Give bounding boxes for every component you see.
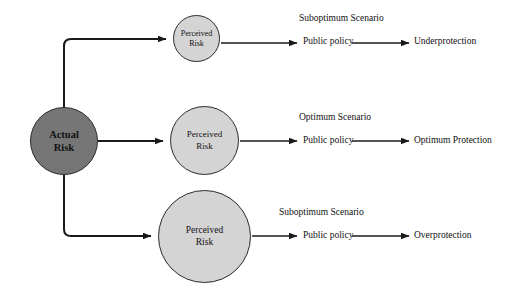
connector-source-to-perceived-1	[64, 39, 166, 107]
scenario-label-optimum: Optimum Scenario	[299, 112, 371, 122]
scenario-label-underprotection: Suboptimum Scenario	[299, 13, 384, 23]
perceived-risk-2-label-line2: Risk	[196, 141, 213, 152]
perceived-risk-node-accurate: Perceived Risk	[170, 106, 239, 175]
scenario-label-overprotection: Suboptimum Scenario	[279, 207, 364, 217]
risk-perception-diagram: Actual Risk Perceived Risk Perceived Ris…	[0, 0, 517, 287]
outcome-label-overprotection: Overprotection	[414, 230, 472, 240]
perceived-risk-1-label-line2: Risk	[189, 39, 204, 49]
perceived-risk-3-label-line2: Risk	[196, 237, 213, 249]
perceived-risk-node-overestimate: Perceived Risk	[158, 190, 251, 283]
actual-risk-label-line1: Actual	[49, 128, 79, 141]
perceived-risk-1-label-line1: Perceived	[181, 29, 213, 39]
perceived-risk-3-label-line1: Perceived	[186, 225, 223, 237]
outcome-label-underprotection: Underprotection	[414, 36, 476, 46]
policy-label-row-3: Public policy	[303, 230, 353, 240]
perceived-risk-node-underestimate: Perceived Risk	[173, 15, 220, 62]
policy-label-row-1: Public policy	[303, 36, 353, 46]
connector-source-to-perceived-3	[64, 175, 151, 236]
actual-risk-label-line2: Risk	[54, 141, 74, 154]
perceived-risk-2-label-line1: Perceived	[187, 129, 222, 140]
outcome-label-optimum-protection: Optimum Protection	[414, 135, 492, 145]
policy-label-row-2: Public policy	[303, 135, 353, 145]
actual-risk-node: Actual Risk	[30, 107, 98, 175]
